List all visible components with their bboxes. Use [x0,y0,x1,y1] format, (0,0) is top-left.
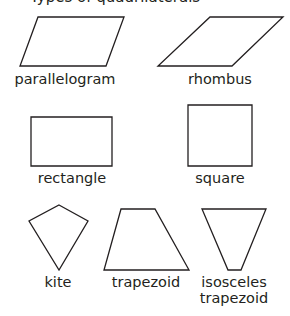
quadrilaterals-figure [0,0,290,316]
rectangle-shape [31,117,112,166]
square-label: square [195,170,244,186]
rhombus-label: rhombus [188,71,252,87]
square-shape [188,105,252,166]
kite-label: kite [44,274,71,290]
parallelogram-shape [20,17,124,66]
parallelogram-label: parallelogram [15,71,116,87]
trapezoid-label: trapezoid [112,274,180,290]
rectangle-label: rectangle [38,170,106,186]
kite-shape [29,205,88,270]
isosceles-trapezoid-label: isosceles trapezoid [200,274,268,306]
isosceles-trapezoid-label-line1: isosceles [200,274,268,290]
rhombus-shape [158,17,283,66]
isosceles-trapezoid-shape [202,209,266,270]
trapezoid-shape [104,209,189,270]
isosceles-trapezoid-label-line2: trapezoid [200,290,268,306]
